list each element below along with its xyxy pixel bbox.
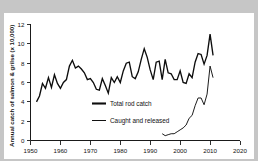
y-tick-label: 4: [21, 98, 25, 105]
y-tick-label: 0: [21, 137, 25, 144]
x-tick-label: 2000: [173, 147, 187, 154]
y-tick-label: 2: [21, 118, 25, 125]
y-axis-ticks: [27, 25, 31, 141]
y-tick-label: 10: [18, 40, 25, 47]
y-axis-tick-labels: 0 2 4 6 8 10 12: [18, 21, 25, 144]
chart-legend: Total rod catch Caught and released: [92, 100, 170, 125]
figure-container: Annual catch of salmon & grilse (x 10,00…: [0, 0, 258, 161]
legend-label-total-rod-catch: Total rod catch: [110, 100, 152, 107]
legend-label-caught-and-released: Caught and released: [110, 117, 170, 125]
y-tick-label: 6: [21, 79, 25, 86]
y-tick-label: 12: [18, 21, 25, 28]
x-tick-label: 1960: [54, 147, 68, 154]
line-chart: Annual catch of salmon & grilse (x 10,00…: [4, 13, 254, 159]
y-axis-title: Annual catch of salmon & grilse (x 10,00…: [8, 25, 15, 147]
x-tick-label: 2020: [233, 147, 247, 154]
x-tick-label: 1950: [24, 147, 38, 154]
x-tick-label: 1970: [84, 147, 98, 154]
chart-canvas: Annual catch of salmon & grilse (x 10,00…: [4, 13, 254, 159]
x-tick-label: 2010: [203, 147, 217, 154]
series-line-total-rod-catch: [36, 34, 213, 102]
y-tick-label: 8: [21, 60, 25, 67]
x-axis-ticks: [31, 141, 241, 145]
x-tick-label: 1980: [113, 147, 127, 154]
x-axis-tick-labels: 1950 1960 1970 1980 1990 2000 2010 2020: [24, 147, 248, 154]
x-tick-label: 1990: [143, 147, 157, 154]
